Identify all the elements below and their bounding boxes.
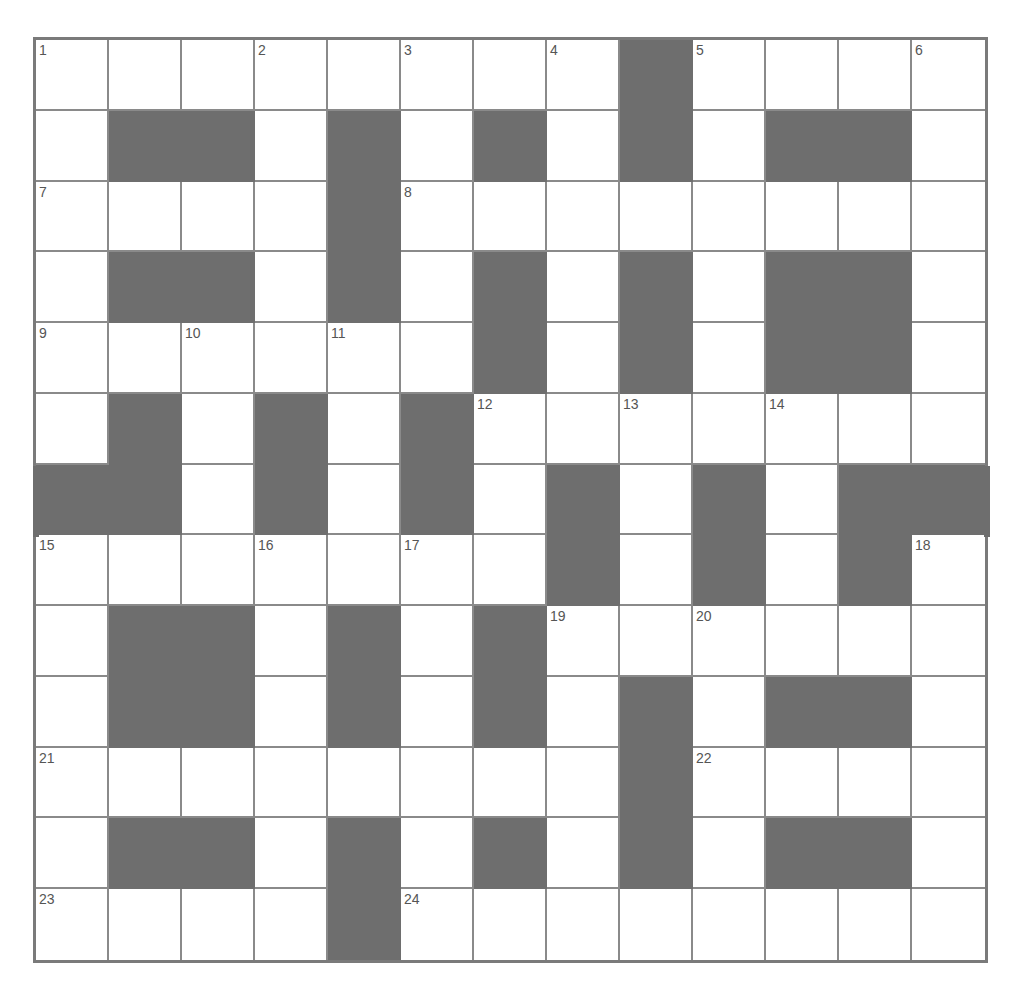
crossword-cell[interactable] [255,889,328,960]
crossword-cell[interactable] [693,818,766,889]
crossword-cell[interactable] [547,111,620,182]
crossword-cell[interactable] [182,535,255,606]
crossword-cell[interactable]: 5 [693,40,766,111]
crossword-cell[interactable] [839,748,912,819]
crossword-cell[interactable]: 15 [36,535,109,606]
crossword-cell[interactable]: 14 [766,394,839,465]
crossword-cell[interactable] [547,889,620,960]
crossword-cell[interactable] [839,40,912,111]
crossword-cell[interactable]: 10 [182,323,255,394]
crossword-cell[interactable] [912,111,985,182]
crossword-cell[interactable] [328,748,401,819]
crossword-cell[interactable] [255,182,328,253]
crossword-cell[interactable] [693,394,766,465]
crossword-cell[interactable] [182,889,255,960]
crossword-cell[interactable] [401,606,474,677]
crossword-cell[interactable] [693,323,766,394]
crossword-cell[interactable] [109,323,182,394]
crossword-cell[interactable] [401,818,474,889]
crossword-cell[interactable]: 19 [547,606,620,677]
crossword-cell[interactable] [401,677,474,748]
crossword-cell[interactable]: 2 [255,40,328,111]
crossword-cell[interactable] [401,252,474,323]
crossword-cell[interactable]: 7 [36,182,109,253]
crossword-cell[interactable] [255,323,328,394]
crossword-cell[interactable] [766,182,839,253]
crossword-cell[interactable]: 4 [547,40,620,111]
crossword-cell[interactable] [36,252,109,323]
crossword-cell[interactable] [766,748,839,819]
crossword-cell[interactable] [474,748,547,819]
crossword-cell[interactable] [401,748,474,819]
crossword-cell[interactable] [912,252,985,323]
crossword-cell[interactable] [474,535,547,606]
crossword-cell[interactable] [255,818,328,889]
crossword-cell[interactable] [547,818,620,889]
crossword-cell[interactable] [547,323,620,394]
crossword-cell[interactable] [912,606,985,677]
crossword-cell[interactable] [912,818,985,889]
crossword-cell[interactable] [328,40,401,111]
crossword-cell[interactable] [620,465,693,536]
crossword-cell[interactable]: 21 [36,748,109,819]
crossword-cell[interactable] [109,40,182,111]
crossword-cell[interactable] [839,182,912,253]
crossword-cell[interactable] [547,252,620,323]
crossword-cell[interactable] [36,677,109,748]
crossword-cell[interactable] [182,465,255,536]
crossword-cell[interactable] [766,465,839,536]
crossword-cell[interactable] [839,394,912,465]
crossword-cell[interactable]: 24 [401,889,474,960]
crossword-cell[interactable] [182,748,255,819]
crossword-cell[interactable]: 9 [36,323,109,394]
crossword-cell[interactable] [912,677,985,748]
crossword-cell[interactable]: 20 [693,606,766,677]
crossword-cell[interactable] [766,535,839,606]
crossword-cell[interactable] [693,252,766,323]
crossword-cell[interactable] [912,748,985,819]
crossword-cell[interactable] [109,889,182,960]
crossword-cell[interactable]: 1 [36,40,109,111]
crossword-cell[interactable] [912,394,985,465]
crossword-cell[interactable] [693,111,766,182]
crossword-cell[interactable]: 17 [401,535,474,606]
crossword-cell[interactable] [474,182,547,253]
crossword-cell[interactable] [547,182,620,253]
crossword-cell[interactable] [36,394,109,465]
crossword-cell[interactable] [912,182,985,253]
crossword-cell[interactable] [474,40,547,111]
crossword-cell[interactable] [693,182,766,253]
crossword-cell[interactable] [766,606,839,677]
crossword-cell[interactable] [693,889,766,960]
crossword-cell[interactable] [401,323,474,394]
crossword-cell[interactable] [255,677,328,748]
crossword-cell[interactable]: 23 [36,889,109,960]
crossword-cell[interactable] [620,535,693,606]
crossword-cell[interactable] [839,606,912,677]
crossword-cell[interactable]: 13 [620,394,693,465]
crossword-cell[interactable]: 3 [401,40,474,111]
crossword-cell[interactable] [109,748,182,819]
crossword-cell[interactable] [547,677,620,748]
crossword-cell[interactable] [182,40,255,111]
crossword-cell[interactable] [182,394,255,465]
crossword-cell[interactable] [255,111,328,182]
crossword-cell[interactable] [109,535,182,606]
crossword-cell[interactable] [766,889,839,960]
crossword-cell[interactable]: 11 [328,323,401,394]
crossword-cell[interactable] [839,889,912,960]
crossword-cell[interactable] [474,465,547,536]
crossword-cell[interactable] [912,323,985,394]
crossword-cell[interactable] [36,111,109,182]
crossword-cell[interactable]: 22 [693,748,766,819]
crossword-cell[interactable] [766,40,839,111]
crossword-cell[interactable] [693,677,766,748]
crossword-cell[interactable]: 16 [255,535,328,606]
crossword-cell[interactable] [620,606,693,677]
crossword-cell[interactable] [547,394,620,465]
crossword-cell[interactable] [255,252,328,323]
crossword-cell[interactable] [401,111,474,182]
crossword-cell[interactable] [36,606,109,677]
crossword-cell[interactable] [328,535,401,606]
crossword-cell[interactable] [328,394,401,465]
